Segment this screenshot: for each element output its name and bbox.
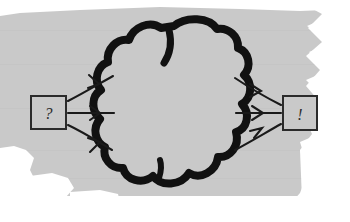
output-box-label: ! bbox=[297, 106, 302, 123]
diagram-canvas: ? ! bbox=[0, 0, 350, 222]
cloud-shape[interactable] bbox=[93, 19, 250, 183]
cloud-bottom-cleft bbox=[159, 160, 161, 178]
input-box-label: ? bbox=[45, 105, 53, 122]
input-box[interactable]: ? bbox=[31, 96, 66, 129]
output-box[interactable]: ! bbox=[283, 96, 317, 130]
